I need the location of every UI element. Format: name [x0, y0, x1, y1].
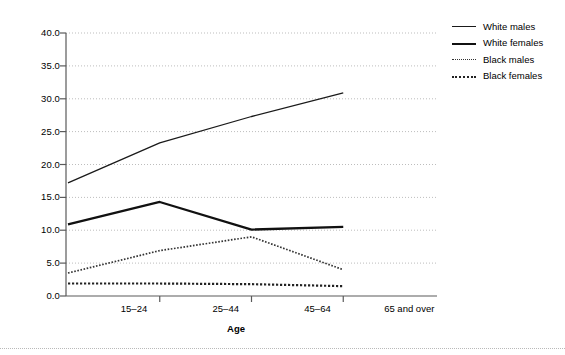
x-tick-label: 15–24 [121, 303, 147, 315]
legend-item-black-males: Black males [452, 51, 562, 68]
x-axis-tick-labels: 15–24 25–44 45–64 65 and over [66, 303, 406, 319]
legend-line-swatch-solid-thick-icon [452, 38, 476, 48]
x-tick-label: 65 and over [384, 303, 434, 315]
series-line-black-females [68, 284, 343, 287]
legend-line-swatch-dotted-coarse-icon [452, 71, 476, 81]
x-tick-label: 25–44 [213, 303, 239, 315]
series-line-black-males [68, 237, 343, 273]
legend-item-white-females: White females [452, 35, 562, 52]
x-axis-ticks [160, 296, 344, 302]
x-tick-label: 45–64 [304, 303, 330, 315]
legend-item-label: Black females [483, 70, 542, 81]
x-axis-title: Age [66, 323, 406, 334]
series-line-white-males [68, 93, 343, 183]
legend-item-label: White males [483, 21, 535, 32]
legend-item-white-males: White males [452, 18, 562, 35]
y-axis-ticks [60, 33, 66, 296]
series-line-white-females [68, 202, 343, 230]
legend-line-swatch-dotted-fine-icon [452, 54, 476, 64]
legend-item-label: White females [483, 37, 543, 48]
legend-item-black-females: Black females [452, 68, 562, 85]
line-chart-figure: 40.0 35.0 30.0 25.0 20.0 15.0 10.0 5.0 0… [0, 0, 565, 355]
legend-item-label: Black males [483, 54, 534, 65]
legend-line-swatch-solid-thin-icon [452, 21, 476, 31]
data-series-layer [68, 93, 343, 286]
footer-divider [0, 348, 565, 349]
chart-legend: White males White females Black males Bl… [452, 18, 562, 84]
